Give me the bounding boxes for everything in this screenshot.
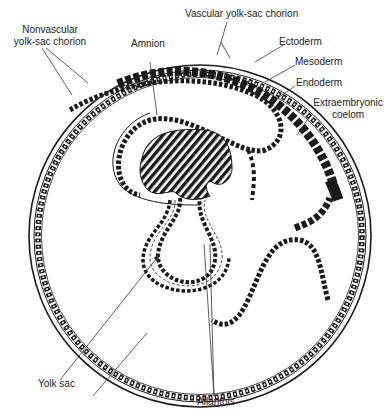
embryo-body — [140, 129, 232, 199]
label-mesoderm: Mesoderm — [295, 56, 342, 68]
label-amnion: Amnion — [131, 38, 165, 50]
label-vascular-chorion: Vascular yolk-sac chorion — [185, 8, 298, 20]
label-extraembryonic-line1: Extraembryonic — [308, 97, 388, 109]
label-extraembryonic-coelom: Extraembryonic coelom — [308, 97, 388, 121]
label-nonvascular-line2: yolk-sac chorion — [10, 36, 90, 48]
label-allantois: Allantois — [197, 396, 235, 408]
yolk-sac-cell-layer — [38, 74, 362, 398]
allantois — [143, 198, 229, 291]
label-nonvascular-chorion: Nonvascular yolk-sac chorion — [10, 24, 90, 48]
label-nonvascular-line1: Nonvascular — [10, 24, 90, 36]
label-yolk-sac: Yolk sac — [38, 378, 75, 390]
label-ectoderm: Ectoderm — [279, 36, 322, 48]
yolk-sac-inner-wall — [212, 240, 328, 325]
label-endoderm: Endoderm — [296, 77, 342, 89]
label-extraembryonic-line2: coelom — [308, 109, 388, 121]
